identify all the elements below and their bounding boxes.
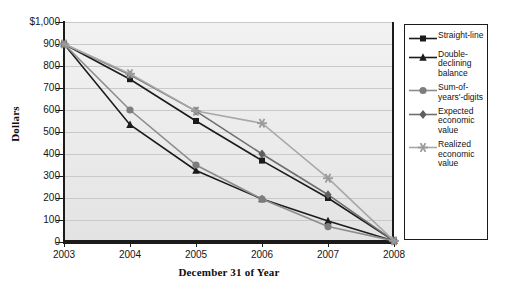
series-double-declining-balance [60, 40, 398, 244]
y-axis-tick [56, 220, 64, 221]
legend-item[interactable]: Expected economic value [408, 107, 484, 135]
data-point-diamond [258, 150, 265, 159]
legend-item-label: Expected economic value [438, 107, 484, 135]
legend-marker-square-icon [408, 32, 438, 45]
y-axis-tick [56, 198, 64, 199]
data-point-circle [324, 223, 331, 230]
chart-figure: $1,0009008007006005004003002001000 20032… [0, 0, 523, 298]
x-axis-tick-label: 2006 [235, 249, 289, 260]
legend-item[interactable]: Double-declining balance [408, 50, 484, 78]
legend-marker-diamond-icon [408, 108, 438, 121]
y-axis-tick [56, 66, 64, 67]
y-axis-tick [56, 22, 64, 23]
x-axis-tick [262, 242, 263, 247]
y-axis-tick-label: $1,000 [8, 17, 60, 27]
y-axis-tick [56, 88, 64, 89]
data-point-circle [258, 196, 265, 203]
data-point-square [193, 118, 199, 124]
y-axis-title: Dollars [9, 89, 21, 159]
legend-item-label: Realized economic value [438, 140, 484, 168]
x-axis-tick-label: 2003 [37, 249, 91, 260]
y-axis-tick-label: 800 [8, 61, 60, 71]
legend-marker-triangle-icon [408, 51, 438, 64]
data-series-layer [64, 22, 394, 242]
data-point-circle [419, 87, 426, 94]
x-axis-tick-label: 2004 [103, 249, 157, 260]
x-axis-line [63, 242, 396, 244]
data-point-circle [192, 161, 199, 168]
data-point-asterisk [418, 143, 428, 152]
data-point-square [420, 36, 426, 42]
series-line [64, 44, 394, 241]
x-axis-tick [196, 242, 197, 247]
series-line [64, 44, 394, 241]
x-axis-title: December 31 of Year [64, 266, 394, 278]
series-sum-of-years-digits [60, 40, 397, 244]
data-point-square [259, 158, 265, 164]
data-point-diamond [419, 110, 426, 119]
series-line [64, 44, 394, 241]
series-realized-economic-value [59, 40, 399, 246]
legend-marker-asterisk-icon [408, 141, 438, 154]
y-axis-tick [56, 154, 64, 155]
legend-item-label: Double-declining balance [438, 50, 484, 78]
data-point-circle [126, 106, 133, 113]
series-line [64, 44, 394, 241]
y-axis-tick-label: 100 [8, 215, 60, 225]
legend-item-label: Sum-of-years'-digits [438, 83, 484, 102]
x-axis-tick-label: 2008 [367, 249, 421, 260]
y-axis-tick-label: 900 [8, 39, 60, 49]
y-axis-tick [56, 176, 64, 177]
legend-marker-circle-icon [408, 84, 438, 97]
x-axis-tick [328, 242, 329, 247]
y-axis-tick-label: 200 [8, 193, 60, 203]
legend-item[interactable]: Straight-line [408, 31, 484, 45]
y-axis-tick [56, 132, 64, 133]
x-axis-tick-label: 2007 [301, 249, 355, 260]
x-axis-tick [130, 242, 131, 247]
chart-legend: Straight-lineDouble-declining balanceSum… [404, 24, 488, 240]
x-axis-tick [64, 242, 65, 247]
x-axis-tick-label: 2005 [169, 249, 223, 260]
series-line [64, 44, 394, 241]
y-axis-tick-label: 300 [8, 171, 60, 181]
legend-item-label: Straight-line [438, 31, 483, 40]
series-straight-line [61, 41, 397, 244]
y-axis-tick [56, 110, 64, 111]
y-axis-tick-label: 0 [8, 237, 60, 247]
legend-item[interactable]: Sum-of-years'-digits [408, 83, 484, 102]
series-expected-economic-value [60, 40, 397, 246]
legend-item[interactable]: Realized economic value [408, 140, 484, 168]
y-axis-tick [56, 242, 64, 243]
